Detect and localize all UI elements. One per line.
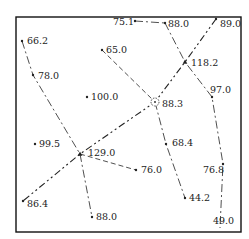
- dot-marker-icon: [21, 40, 23, 42]
- point-label: 99.5: [39, 138, 60, 149]
- point-p12: 129.0: [78, 147, 116, 158]
- point-p19: 49.0: [213, 215, 234, 226]
- point-label: 89.0: [220, 18, 241, 29]
- dot-marker-icon: [215, 18, 217, 20]
- point-p15: 76.8: [203, 163, 224, 175]
- point-label: 68.4: [172, 137, 193, 148]
- point-label: 118.2: [191, 57, 218, 68]
- diagram-canvas: 66.278.065.0100.075.188.089.0118.297.088…: [0, 0, 249, 239]
- point-label: 86.4: [27, 198, 48, 209]
- point-label: 75.1: [113, 16, 134, 27]
- point-p9: 97.0: [210, 84, 231, 98]
- point-label: 129.0: [88, 147, 115, 158]
- point-p18: 88.0: [91, 211, 117, 222]
- point-p11: 99.5: [34, 138, 60, 149]
- point-label: 100.0: [91, 91, 118, 102]
- point-p10: 88.3: [151, 98, 183, 109]
- dot-marker-icon: [211, 96, 213, 98]
- point-label: 76.0: [141, 164, 162, 175]
- point-label: 88.3: [162, 98, 183, 109]
- dot-marker-icon: [22, 200, 24, 202]
- point-p5: 75.1: [113, 16, 136, 27]
- point-p13: 76.0: [135, 164, 162, 175]
- point-label: 44.2: [189, 192, 210, 203]
- point-label: 65.0: [106, 44, 127, 55]
- dot-marker-icon: [134, 20, 136, 22]
- dot-marker-icon: [34, 143, 36, 145]
- point-p4: 100.0: [86, 91, 118, 102]
- point-p16: 44.2: [184, 192, 210, 203]
- dot-marker-icon: [32, 74, 34, 76]
- line-l7: [80, 154, 92, 217]
- dot-marker-icon: [184, 197, 186, 199]
- point-label: 66.2: [27, 35, 48, 46]
- point-p6: 88.0: [164, 18, 189, 29]
- point-label: 76.8: [203, 164, 224, 175]
- line-l3: [135, 21, 165, 23]
- point-label: 88.0: [168, 18, 189, 29]
- point-p2: 78.0: [32, 70, 59, 81]
- point-p14: 68.4: [165, 137, 193, 148]
- dot-marker-icon: [91, 216, 93, 218]
- dot-marker-icon: [101, 49, 103, 51]
- point-label: 88.0: [96, 211, 117, 222]
- dot-marker-icon: [164, 22, 166, 24]
- dot-marker-icon: [86, 96, 88, 98]
- point-p7: 89.0: [215, 18, 241, 29]
- data-points: 66.278.065.0100.075.188.089.0118.297.088…: [21, 16, 241, 226]
- point-label: 97.0: [210, 84, 231, 95]
- point-p1: 66.2: [21, 35, 48, 46]
- dot-marker-icon: [165, 143, 167, 145]
- triangle-marker-icon: [78, 152, 83, 156]
- line-l8: [155, 102, 185, 198]
- dot-marker-icon: [135, 169, 137, 171]
- point-label: 78.0: [38, 70, 59, 81]
- point-p17: 86.4: [22, 198, 48, 209]
- point-label: 49.0: [213, 215, 234, 226]
- point-p3: 65.0: [101, 44, 127, 55]
